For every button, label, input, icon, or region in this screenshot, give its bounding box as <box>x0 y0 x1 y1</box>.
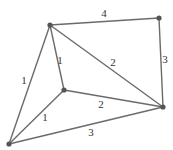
edge-weight-label: 2 <box>110 56 116 68</box>
edge-A-B <box>50 18 159 25</box>
edge-weight-label: 1 <box>21 74 27 86</box>
edge-weight-label: 4 <box>101 7 107 19</box>
edge-labels-group: 43211213 <box>21 7 168 138</box>
edge-D-C <box>64 90 163 107</box>
edge-weight-label: 1 <box>57 54 63 66</box>
graph-node-E <box>6 141 11 146</box>
weighted-graph-diagram: 43211213 <box>0 0 173 150</box>
graph-node-B <box>156 15 161 20</box>
edges-group <box>9 18 163 144</box>
edge-weight-label: 1 <box>42 111 48 123</box>
graph-node-C <box>160 104 165 109</box>
edge-A-C <box>50 25 163 107</box>
graph-node-A <box>47 22 52 27</box>
edge-D-E <box>9 90 64 144</box>
edge-weight-label: 3 <box>162 53 168 65</box>
edge-weight-label: 3 <box>88 126 94 138</box>
edge-E-C <box>9 107 163 144</box>
graph-node-D <box>61 87 66 92</box>
edge-weight-label: 2 <box>98 98 104 110</box>
edge-A-E <box>9 25 50 144</box>
